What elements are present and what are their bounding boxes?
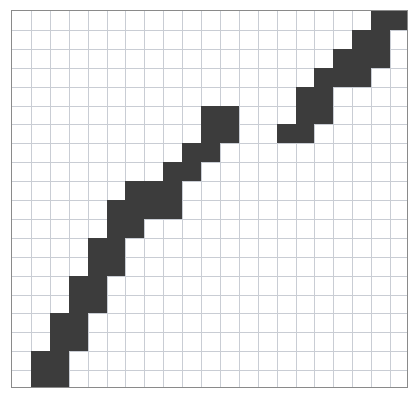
staircase-cell <box>296 106 314 124</box>
staircase-cell <box>371 30 390 49</box>
staircase-cell <box>333 68 352 87</box>
staircase-cell <box>314 87 333 106</box>
plot-frame <box>11 10 408 388</box>
staircase-cell <box>352 49 371 68</box>
staircase-cell <box>371 49 390 68</box>
staircase-cell <box>296 124 314 143</box>
staircase-cell <box>371 11 390 30</box>
staircase-shapes-layer <box>12 11 407 387</box>
staircase-cell <box>296 87 314 106</box>
staircase-cell <box>352 30 371 49</box>
figure-canvas <box>0 0 419 400</box>
staircase-cell <box>352 68 371 87</box>
staircase-cell <box>277 124 296 143</box>
staircase-segment <box>12 11 407 387</box>
staircase-cell <box>390 11 408 30</box>
staircase-cell <box>314 106 333 124</box>
staircase-cell <box>333 49 352 68</box>
staircase-cell <box>314 68 333 87</box>
